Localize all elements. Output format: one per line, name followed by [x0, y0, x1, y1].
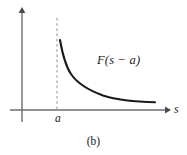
x-axis-arrow-icon	[165, 107, 171, 114]
plot-svg	[0, 0, 187, 155]
a-tick-label: a	[55, 113, 61, 125]
y-axis-arrow-icon	[19, 7, 26, 13]
figure-caption: (b)	[0, 135, 187, 147]
curve-f-s-minus-a	[60, 40, 155, 102]
x-axis-label: s	[174, 104, 178, 116]
curve-label: F(s − a)	[97, 54, 140, 67]
figure-container: F(s − a) s a (b)	[0, 0, 187, 155]
